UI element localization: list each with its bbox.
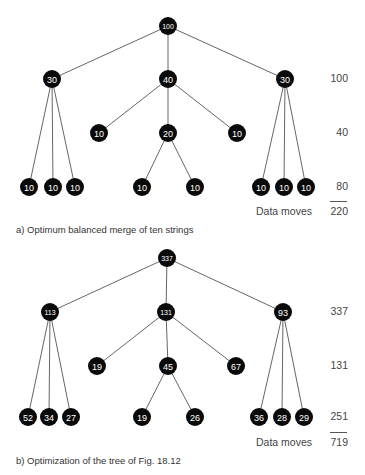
tree-edge bbox=[97, 312, 166, 366]
svg-text:337: 337 bbox=[161, 255, 173, 262]
tree-node: 10 bbox=[297, 178, 315, 196]
svg-text:10: 10 bbox=[24, 183, 34, 193]
svg-text:29: 29 bbox=[299, 413, 309, 423]
svg-text:19: 19 bbox=[137, 413, 147, 423]
svg-text:10: 10 bbox=[232, 129, 242, 139]
data-moves-total: 719 bbox=[318, 436, 348, 448]
tree-edge bbox=[29, 79, 52, 187]
svg-text:100: 100 bbox=[162, 23, 174, 30]
level-sum: 40 bbox=[318, 126, 348, 138]
svg-text:67: 67 bbox=[231, 362, 241, 372]
tree-edge bbox=[52, 79, 53, 187]
svg-text:10: 10 bbox=[256, 183, 266, 193]
tree-node: 30 bbox=[276, 70, 294, 88]
tree-edge bbox=[50, 312, 71, 417]
tree-edge bbox=[168, 79, 237, 133]
svg-text:34: 34 bbox=[44, 413, 54, 423]
svg-text:131: 131 bbox=[160, 309, 172, 316]
svg-text:40: 40 bbox=[163, 75, 173, 85]
tree-node: 27 bbox=[62, 408, 80, 426]
tree-node: 10 bbox=[90, 124, 108, 142]
tree-node: 10 bbox=[20, 178, 38, 196]
tree-edge bbox=[49, 312, 50, 417]
svg-text:10: 10 bbox=[94, 129, 104, 139]
data-moves-label: Data moves bbox=[256, 436, 312, 448]
figure-caption: a) Optimum balanced merge of ten strings bbox=[16, 224, 193, 235]
tree-edge bbox=[50, 258, 167, 312]
svg-text:19: 19 bbox=[92, 362, 102, 372]
svg-text:10: 10 bbox=[279, 183, 289, 193]
merge-tree-diagrams: 1003040301020101010101010101010337113131… bbox=[0, 0, 365, 475]
svg-text:10: 10 bbox=[301, 183, 311, 193]
tree-node: 10 bbox=[44, 178, 62, 196]
tree-node: 67 bbox=[227, 357, 245, 375]
level-sum: 100 bbox=[318, 72, 348, 84]
tree-node: 20 bbox=[159, 124, 177, 142]
tree-node: 10 bbox=[252, 178, 270, 196]
tree-edge bbox=[52, 26, 168, 79]
tree-node: 10 bbox=[275, 178, 293, 196]
svg-text:10: 10 bbox=[137, 183, 147, 193]
svg-text:113: 113 bbox=[44, 309, 55, 316]
tree-node: 131 bbox=[157, 303, 175, 321]
svg-text:27: 27 bbox=[66, 413, 76, 423]
tree-edge bbox=[99, 79, 168, 133]
tree-node: 34 bbox=[40, 408, 58, 426]
tree-node: 29 bbox=[295, 408, 313, 426]
tree-node: 10 bbox=[66, 178, 84, 196]
tree-node: 52 bbox=[19, 408, 37, 426]
tree-node: 36 bbox=[250, 408, 268, 426]
tree-edge bbox=[167, 258, 283, 312]
sum-divider bbox=[330, 201, 347, 202]
tree-node: 19 bbox=[88, 357, 106, 375]
level-sum: 251 bbox=[318, 410, 348, 422]
tree-edge bbox=[52, 79, 75, 187]
tree-edge bbox=[28, 312, 50, 417]
tree-node: 40 bbox=[159, 70, 177, 88]
level-sum: 337 bbox=[318, 305, 348, 317]
tree-edge bbox=[261, 79, 285, 187]
tree-a: 1003040301020101010101010101010 bbox=[20, 17, 315, 196]
level-sum: 131 bbox=[318, 359, 348, 371]
level-sum: 80 bbox=[318, 180, 348, 192]
tree-node: 100 bbox=[159, 17, 177, 35]
tree-edge bbox=[283, 312, 304, 417]
svg-text:10: 10 bbox=[70, 183, 80, 193]
svg-text:30: 30 bbox=[280, 75, 290, 85]
svg-text:30: 30 bbox=[47, 75, 57, 85]
tree-edge bbox=[168, 26, 285, 79]
svg-text:26: 26 bbox=[190, 413, 200, 423]
svg-text:28: 28 bbox=[277, 413, 287, 423]
data-moves-label: Data moves bbox=[256, 205, 312, 217]
tree-edge bbox=[168, 133, 195, 187]
tree-edge bbox=[284, 79, 285, 187]
svg-text:10: 10 bbox=[48, 183, 58, 193]
tree-node: 26 bbox=[186, 408, 204, 426]
tree-edge bbox=[166, 312, 236, 366]
tree-node: 113 bbox=[41, 303, 59, 321]
tree-edge bbox=[259, 312, 283, 417]
tree-node: 28 bbox=[273, 408, 291, 426]
svg-text:45: 45 bbox=[163, 362, 173, 372]
svg-text:52: 52 bbox=[23, 413, 33, 423]
svg-text:10: 10 bbox=[190, 183, 200, 193]
tree-node: 10 bbox=[186, 178, 204, 196]
tree-node: 93 bbox=[274, 303, 292, 321]
tree-node: 45 bbox=[159, 357, 177, 375]
data-moves-total: 220 bbox=[318, 205, 348, 217]
tree-node: 10 bbox=[133, 178, 151, 196]
svg-text:20: 20 bbox=[163, 129, 173, 139]
tree-node: 10 bbox=[228, 124, 246, 142]
sum-divider bbox=[330, 432, 347, 433]
tree-node: 337 bbox=[158, 249, 176, 267]
tree-node: 19 bbox=[133, 408, 151, 426]
tree-node: 30 bbox=[43, 70, 61, 88]
tree-edge bbox=[285, 79, 306, 187]
tree-edge bbox=[282, 312, 283, 417]
figure-caption: b) Optimization of the tree of Fig. 18.1… bbox=[16, 455, 181, 466]
svg-text:93: 93 bbox=[278, 308, 288, 318]
tree-b: 337113131931945675234271926362829 bbox=[19, 249, 313, 426]
svg-text:36: 36 bbox=[254, 413, 264, 423]
